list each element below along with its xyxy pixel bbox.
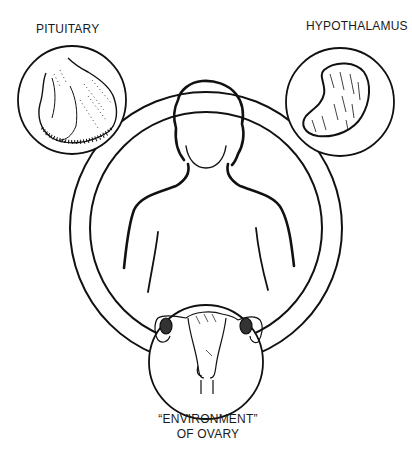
ovary-label-line2: OF OVARY: [146, 427, 270, 442]
pituitary-label: PITUITARY: [36, 22, 99, 37]
ovary-environment-label: “ENVIRONMENT” OF OVARY: [146, 412, 270, 442]
diagram-canvas: [0, 0, 412, 459]
ovary-label-line1: “ENVIRONMENT”: [146, 412, 270, 427]
hypothalamus-label: HYPOTHALAMUS: [306, 19, 408, 34]
